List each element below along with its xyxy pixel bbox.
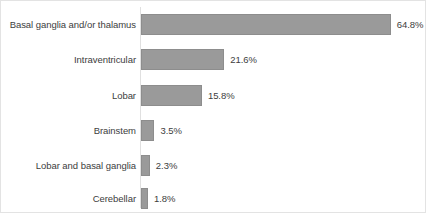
bar-wrapper: 15.8%	[141, 85, 235, 106]
bar-wrapper: 3.5%	[141, 120, 182, 141]
bar-row: Cerebellar 1.8%	[1, 188, 426, 209]
bar-row: Brainstem 3.5%	[1, 120, 426, 141]
bar-chart: Basal ganglia and/or thalamus 64.8% Intr…	[0, 0, 426, 213]
bar-intraventricular	[141, 49, 224, 70]
category-label: Lobar and basal ganglia	[6, 155, 136, 176]
category-axis-line	[140, 7, 141, 208]
category-label: Intraventricular	[6, 49, 136, 70]
category-label: Cerebellar	[6, 188, 136, 209]
bar-row: Lobar and basal ganglia 2.3%	[1, 155, 426, 176]
value-label: 2.3%	[156, 155, 177, 176]
value-label: 1.8%	[154, 188, 175, 209]
bar-lobar-and-basal-ganglia	[141, 155, 150, 176]
category-label: Basal ganglia and/or thalamus	[6, 14, 136, 35]
bar-wrapper: 64.8%	[141, 14, 423, 35]
bar-row: Intraventricular 21.6%	[1, 49, 426, 70]
value-label: 64.8%	[397, 14, 424, 35]
bar-brainstem	[141, 120, 154, 141]
bar-wrapper: 21.6%	[141, 49, 257, 70]
category-label: Lobar	[6, 85, 136, 106]
bar-lobar	[141, 85, 202, 106]
category-label: Brainstem	[6, 120, 136, 141]
value-label: 3.5%	[160, 120, 181, 141]
bar-row: Basal ganglia and/or thalamus 64.8%	[1, 14, 426, 35]
value-label: 15.8%	[208, 85, 235, 106]
bar-cerebellar	[141, 188, 148, 209]
bar-basal-ganglia-and-or-thalamus	[141, 14, 391, 35]
value-label: 21.6%	[230, 49, 257, 70]
bar-wrapper: 2.3%	[141, 155, 177, 176]
plot-area: Basal ganglia and/or thalamus 64.8% Intr…	[1, 1, 426, 213]
bar-row: Lobar 15.8%	[1, 85, 426, 106]
bar-wrapper: 1.8%	[141, 188, 175, 209]
